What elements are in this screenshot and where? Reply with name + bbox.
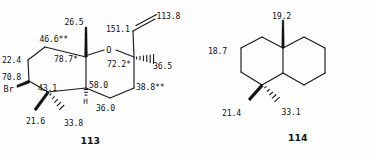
wedge-methyl-19-2 xyxy=(282,20,285,48)
bond-X-Y xyxy=(304,73,325,85)
bond-R-S xyxy=(241,72,262,85)
bond-Y-T xyxy=(283,73,304,85)
bond-U-V xyxy=(283,37,304,48)
shift-methyl-angular-114: 19.2 xyxy=(272,11,291,21)
bond-P-Q xyxy=(241,37,262,48)
bond-S-T xyxy=(262,73,283,85)
wedge-methyl-21-4 xyxy=(248,84,263,101)
bond-U-P xyxy=(262,37,283,48)
decalin-right-ring xyxy=(283,37,325,85)
figure-canvas: O Br H 26.5 46.6** 78.7* 22.4 70.8 43.1 … xyxy=(0,0,375,155)
structure-114: 19.2 18.7 21.4 33.1 114 xyxy=(0,0,375,155)
hash-methyl-33-1 xyxy=(264,86,279,101)
compound-label-114: 114 xyxy=(288,132,308,143)
shift-methyl-gem-beta-114: 33.1 xyxy=(282,107,301,117)
shift-ch2-left-114: 18.7 xyxy=(208,46,227,56)
shift-methyl-gem-alpha-114: 21.4 xyxy=(222,108,241,118)
bond-V-W xyxy=(304,37,325,48)
decalin-left-ring xyxy=(241,37,283,85)
